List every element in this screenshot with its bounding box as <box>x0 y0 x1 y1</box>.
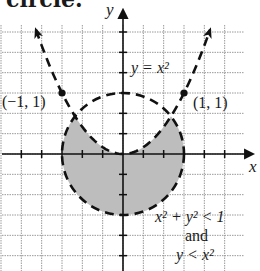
annotation-line3: y < x² <box>174 246 215 264</box>
annotation-line2: and <box>185 227 208 244</box>
annotation-line1: x² + y² < 1 <box>154 208 224 226</box>
chart: x y y = x² (−1, 1) (1, 1) x² + y² < 1 an… <box>0 0 260 271</box>
data-point <box>58 89 65 96</box>
axes <box>2 10 253 271</box>
parabola-label: y = x² <box>129 59 170 77</box>
x-axis-label: x <box>248 157 257 176</box>
data-point <box>180 89 187 96</box>
point-label-1-1: (1, 1) <box>193 94 228 112</box>
point-label-neg1-1: (−1, 1) <box>2 93 46 111</box>
y-axis-label: y <box>104 0 114 19</box>
